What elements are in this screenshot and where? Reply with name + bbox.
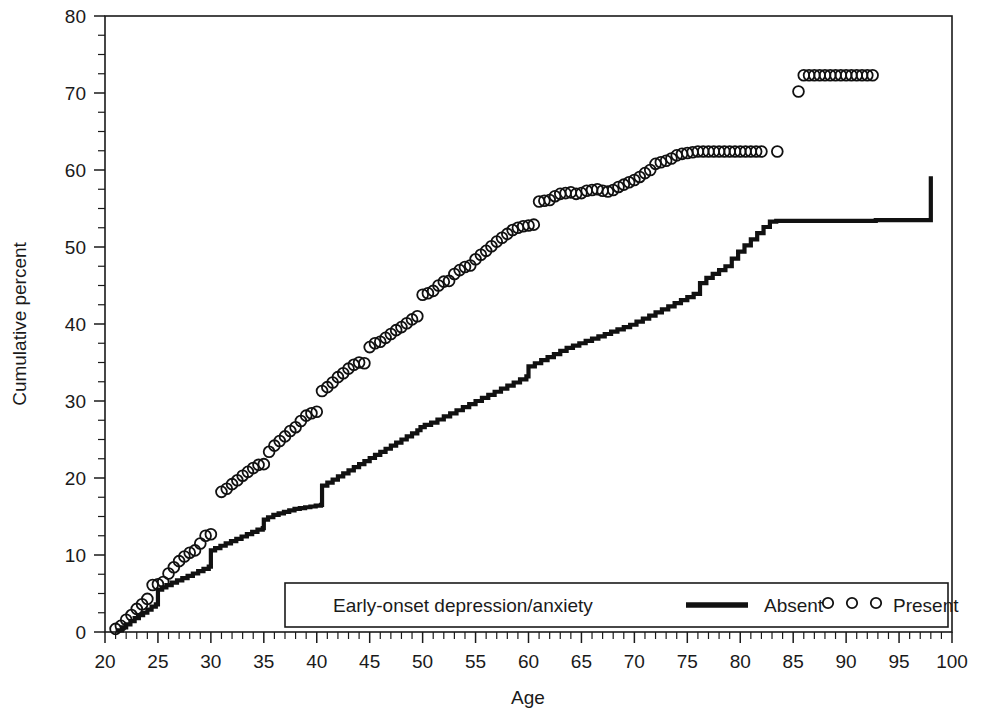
y-tick-label: 50 <box>65 237 86 258</box>
x-tick-label: 80 <box>730 651 751 672</box>
data-point-marker <box>772 146 783 157</box>
x-tick-label: 75 <box>677 651 698 672</box>
x-tick-label: 90 <box>836 651 857 672</box>
figure-container: 20253035404550556065707580859095100 0102… <box>0 0 984 722</box>
y-tick-label: 80 <box>65 6 86 27</box>
x-axis-title: Age <box>511 687 545 708</box>
y-tick-label: 40 <box>65 314 86 335</box>
y-tick-label: 20 <box>65 468 86 489</box>
y-tick-label: 10 <box>65 545 86 566</box>
x-tick-label: 65 <box>571 651 592 672</box>
x-tick-label: 70 <box>624 651 645 672</box>
y-tick-label: 30 <box>65 391 86 412</box>
x-tick-label: 50 <box>412 651 433 672</box>
x-tick-label: 100 <box>936 651 968 672</box>
y-axis-ticks <box>94 16 105 632</box>
y-tick-label: 60 <box>65 160 86 181</box>
y-tick-label: 0 <box>75 622 86 643</box>
x-tick-label: 95 <box>888 651 909 672</box>
x-tick-label: 30 <box>200 651 221 672</box>
x-axis-ticks <box>105 632 952 643</box>
cumulative-percent-chart: 20253035404550556065707580859095100 0102… <box>0 0 984 722</box>
x-tick-label: 45 <box>359 651 380 672</box>
x-tick-label: 60 <box>518 651 539 672</box>
legend: Early-onset depression/anxiety Absent Pr… <box>285 583 959 627</box>
y-axis-tick-labels: 01020304050607080 <box>65 6 86 643</box>
x-tick-label: 20 <box>94 651 115 672</box>
series-present-markers <box>110 70 878 634</box>
data-point-marker <box>793 86 804 97</box>
y-axis-title: Cumulative percent <box>9 241 30 405</box>
x-tick-label: 55 <box>465 651 486 672</box>
legend-title: Early-onset depression/anxiety <box>333 595 593 616</box>
legend-entry-absent-label: Absent <box>764 595 824 616</box>
x-tick-label: 40 <box>306 651 327 672</box>
x-axis-tick-labels: 20253035404550556065707580859095100 <box>94 651 967 672</box>
x-tick-label: 85 <box>783 651 804 672</box>
x-tick-label: 25 <box>147 651 168 672</box>
series-absent-line <box>116 176 931 630</box>
x-tick-label: 35 <box>253 651 274 672</box>
legend-entry-present-label: Present <box>893 595 959 616</box>
y-tick-label: 70 <box>65 83 86 104</box>
